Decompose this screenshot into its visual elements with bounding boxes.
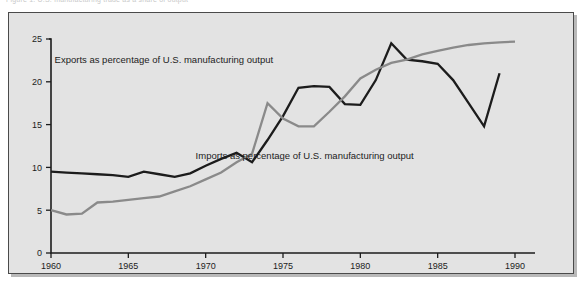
- y-tick-label-25: 25: [32, 34, 42, 44]
- y-tick-label-15: 15: [32, 120, 42, 130]
- x-tick-label-1960: 1960: [41, 261, 61, 271]
- x-tick-label-1965: 1965: [118, 261, 138, 271]
- y-axis-tick-labels: 0510152025: [32, 34, 42, 258]
- chart-axis: [49, 39, 535, 253]
- y-tick-label-5: 5: [37, 206, 42, 216]
- x-tick-label-1990: 1990: [505, 261, 525, 271]
- chart-panel: 0510152025 1960196519701975198019851990 …: [8, 12, 574, 274]
- line-chart: 0510152025 1960196519701975198019851990 …: [9, 13, 575, 275]
- x-tick-label-1970: 1970: [196, 261, 216, 271]
- x-axis-tick-labels: 1960196519701975198019851990: [41, 261, 525, 271]
- annotation-imports: Imports as percentage of U.S. manufactur…: [196, 150, 414, 161]
- plot-area: 0510152025 1960196519701975198019851990 …: [9, 13, 575, 275]
- y-tick-label-0: 0: [37, 248, 42, 258]
- y-tick-label-20: 20: [32, 77, 42, 87]
- x-tick-label-1980: 1980: [350, 261, 370, 271]
- x-tick-label-1975: 1975: [273, 261, 293, 271]
- series-annotations-group: Exports as percentage of U.S. manufactur…: [55, 54, 414, 161]
- figure-caption-remnant: Figure 1. U.S. manufacturing trade as a …: [6, 0, 306, 4]
- series-line-imports: [51, 42, 515, 215]
- annotation-exports: Exports as percentage of U.S. manufactur…: [55, 54, 274, 65]
- axes-group: [49, 39, 535, 253]
- y-tick-label-10: 10: [32, 163, 42, 173]
- x-tick-label-1985: 1985: [428, 261, 448, 271]
- series-lines-group: [51, 42, 515, 215]
